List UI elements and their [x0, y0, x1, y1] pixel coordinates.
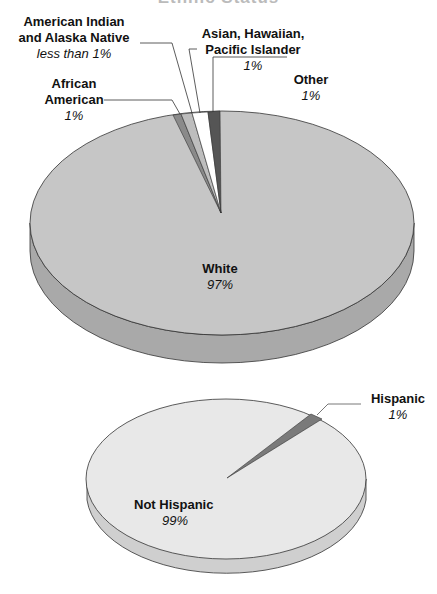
label-percent: less than 1%: [8, 46, 140, 62]
label-american-indian: American Indian and Alaska Native less t…: [8, 14, 140, 62]
label-percent: 1%: [286, 88, 336, 104]
label-name: Other: [286, 72, 336, 88]
label-name: White: [190, 261, 250, 277]
slice-white: [30, 111, 414, 335]
label-other: Other 1%: [286, 72, 336, 104]
leader-african-american: [104, 100, 180, 114]
label-name: American: [34, 92, 114, 108]
label-name: Pacific Islander: [193, 42, 313, 58]
label-name: American Indian: [8, 14, 140, 30]
label-name: Hispanic: [360, 391, 436, 407]
label-percent: 1%: [34, 108, 114, 124]
label-asian: Asian, Hawaiian, Pacific Islander 1%: [193, 26, 313, 74]
label-percent: 1%: [360, 407, 436, 423]
label-african-american: African American 1%: [34, 76, 114, 124]
leader-hispanic: [317, 404, 361, 415]
label-percent: 99%: [134, 513, 240, 529]
label-name: Not Hispanic: [134, 497, 240, 513]
label-name: Asian, Hawaiian,: [193, 26, 313, 42]
label-name: African: [34, 76, 114, 92]
label-white: White 97%: [190, 261, 250, 293]
label-hispanic: Hispanic 1%: [360, 391, 436, 423]
hispanic-pie: [86, 399, 366, 573]
label-name: and Alaska Native: [8, 30, 140, 46]
label-not-hispanic: Not Hispanic 99%: [134, 497, 240, 529]
leader-american-indian: [140, 43, 192, 113]
slice-not-hispanic: [86, 399, 366, 559]
label-percent: 97%: [190, 277, 250, 293]
